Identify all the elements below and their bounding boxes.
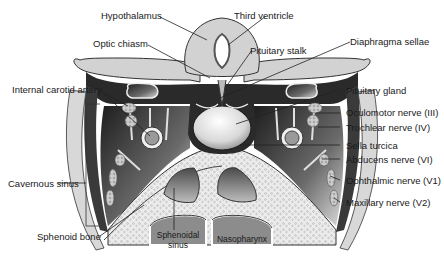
label-optic-chiasm: Optic chiasm <box>93 38 148 49</box>
label-diaphragma-sellae: Diaphragma sellae <box>350 36 429 47</box>
label-sphenoidal-sinus-line2: sinus <box>151 240 205 250</box>
label-nasopharynx: Nasopharynx <box>212 234 272 244</box>
label-internal-carotid-artery: Internal carotid artery <box>12 84 102 95</box>
label-abducens-nerve: Abducens nerve (VI) <box>346 154 433 165</box>
label-trochlear-nerve: Trochlear nerve (IV) <box>346 122 430 133</box>
label-maxillary-nerve: Maxillary nerve (V2) <box>346 197 430 208</box>
label-cavernous-sinus: Cavernous sinus <box>8 178 79 189</box>
label-hypothalamus: Hypothalamus <box>101 10 162 21</box>
label-sella-turcica: Sella turcica <box>346 140 398 151</box>
label-sphenoid-bone: Sphenoid bone <box>37 231 101 242</box>
label-ophthalmic-nerve: Ophthalmic nerve (V1) <box>346 175 441 186</box>
label-third-ventricle: Third ventricle <box>234 10 294 21</box>
brain-outline <box>74 18 370 82</box>
label-sphenoidal-sinus-line1: Sphenoidal <box>151 230 205 240</box>
label-pituitary-gland: Pituitary gland <box>346 85 406 96</box>
label-pituitary-stalk: Pituitary stalk <box>250 45 307 56</box>
label-oculomotor-nerve: Oculomotor nerve (III) <box>346 107 438 118</box>
